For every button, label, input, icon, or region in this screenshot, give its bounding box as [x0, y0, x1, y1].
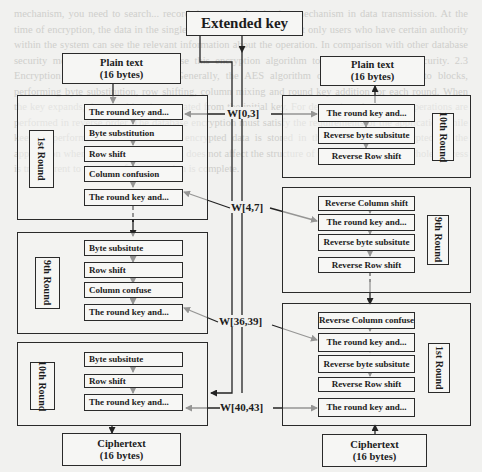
encryption-round-10-label: 10th Round [37, 361, 48, 411]
decryption-round-1-label-box: 1st Round [428, 343, 450, 393]
step-label: Reverse Column shift [325, 199, 408, 208]
step-label: Reverse byte subsitute [324, 360, 410, 369]
encryption-plaintext-label: Plain text [100, 57, 143, 69]
key-label-w0-3: W[0,3] [227, 107, 259, 119]
decryption-plaintext-label: Plain text [351, 59, 394, 71]
encryption-round-1-label-box: 1st Round [29, 130, 54, 188]
decryption-round-1-step-reverse-byte-substitute: Reverse byte subsitute [318, 355, 415, 373]
step-label: The round key and... [89, 308, 169, 317]
step-label: Column confuse [89, 286, 151, 295]
step-label: Reverse Row shift [332, 261, 401, 270]
extended-key-box: Extended key [186, 11, 303, 36]
encryption-round-9-step-row-shift: Row shift [84, 262, 183, 278]
encryption-round-1-step-row-shift: Row shift [84, 146, 183, 162]
encryption-round-1-step-add-round-key-2: The round key and... [84, 189, 183, 206]
decryption-round-9-step-add-round-key: The round key and... [318, 214, 415, 231]
step-label: The round key and... [89, 193, 169, 202]
decryption-round-10-step-add-round-key: The round key and... [318, 104, 415, 122]
decryption-round-9-step-reverse-byte-substitute: Reverse byte subsitute [318, 234, 415, 251]
key-label-w4-7: W[4,7] [231, 201, 263, 213]
encryption-round-10-step-add-round-key: The round key and... [84, 394, 183, 411]
encryption-round-9-step-byte-substitute: Byte subsitute [84, 240, 183, 256]
extended-key-label: Extended key [201, 15, 288, 32]
step-label: Byte subsitute [89, 244, 143, 253]
step-label: Row shift [89, 266, 126, 275]
decryption-ciphertext-size: (16 bytes) [353, 451, 396, 463]
encryption-round-1-step-byte-substitution: Byte substitution [84, 125, 183, 141]
encryption-round-9-label-box: 9th Round [35, 257, 60, 309]
decryption-round-1-step-reverse-column-confuse: Reverse Column confuse [318, 312, 415, 329]
decryption-round-10-step-reverse-row-shift: Reverse Row shift [318, 148, 415, 165]
step-label: Row shift [89, 377, 126, 386]
decryption-round-1-step-add-round-key-1: The round key and... [318, 333, 415, 352]
decryption-round-10-label-box: 10th Round [432, 113, 454, 161]
encryption-round-9-label: 9th Round [42, 260, 53, 305]
decryption-round-1-step-reverse-row-shift: Reverse Row shift [318, 377, 415, 392]
step-label: Reverse Row shift [332, 152, 401, 161]
step-label: The round key and... [89, 398, 169, 407]
decryption-round-1-step-add-round-key-2: The round key and... [318, 398, 415, 417]
step-label: The round key and... [327, 403, 407, 412]
step-label: Reverse byte subsitute [324, 131, 410, 140]
decryption-round-10-label: 10th Round [438, 112, 449, 162]
decryption-plaintext-box: Plain text (16 bytes) [320, 56, 425, 86]
step-label: Reverse Column confuse [319, 316, 414, 325]
step-label: Row shift [89, 150, 126, 159]
decryption-ciphertext-box: Ciphertext (16 bytes) [322, 434, 427, 467]
step-label: The round key and... [327, 338, 407, 347]
encryption-round-1-label: 1st Round [36, 137, 47, 181]
decryption-plaintext-size: (16 bytes) [351, 71, 394, 83]
decryption-round-1-label: 1st Round [434, 346, 445, 390]
key-label-w36-39: W[36,39] [219, 315, 262, 327]
encryption-ciphertext-box: Ciphertext (16 bytes) [62, 433, 181, 466]
encryption-round-1-step-add-round-key-1: The round key and... [84, 104, 183, 120]
encryption-round-10-label-box: 10th Round [30, 362, 55, 410]
encryption-round-9-step-add-round-key: The round key and... [84, 304, 183, 321]
encryption-round-1-step-column-confusion: Column confusion [84, 166, 183, 182]
decryption-round-9-label-box: 9th Round [427, 215, 449, 265]
encryption-plaintext-box: Plain text (16 bytes) [62, 53, 181, 84]
encryption-plaintext-size: (16 bytes) [100, 69, 143, 81]
step-label: Column confusion [89, 170, 159, 179]
encryption-round-9-step-column-confuse: Column confuse [84, 282, 183, 298]
step-label: The round key and... [327, 218, 407, 227]
decryption-round-9-step-reverse-column-shift: Reverse Column shift [318, 196, 415, 211]
step-label: Byte substitution [89, 129, 154, 138]
key-label-w40-43: W[40,43] [220, 401, 263, 413]
encryption-ciphertext-size: (16 bytes) [100, 450, 143, 462]
step-label: Byte subsitute [89, 355, 143, 364]
step-label: Reverse byte subsitute [324, 238, 410, 247]
step-label: The round key and... [327, 109, 407, 118]
step-label: The round key and... [89, 108, 169, 117]
encryption-ciphertext-label: Ciphertext [97, 438, 145, 450]
encryption-round-10-step-byte-substitute: Byte subsitute [84, 352, 183, 367]
decryption-round-9-step-reverse-row-shift: Reverse Row shift [318, 257, 415, 273]
step-label: Reverse Row shift [332, 380, 401, 389]
decryption-round-9-label: 9th Round [433, 217, 444, 262]
encryption-round-10-step-row-shift: Row shift [84, 374, 183, 388]
decryption-round-10-step-reverse-byte-substitute: Reverse byte subsitute [318, 127, 415, 144]
decryption-ciphertext-label: Ciphertext [350, 439, 398, 451]
